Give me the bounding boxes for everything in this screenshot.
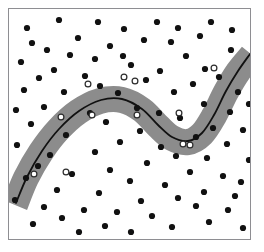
data-point <box>103 119 109 125</box>
data-point <box>187 169 193 175</box>
data-point <box>216 74 222 80</box>
data-point <box>134 105 140 111</box>
data-point <box>193 203 199 209</box>
data-point <box>173 153 179 159</box>
data-point <box>229 27 235 33</box>
data-point <box>137 128 143 134</box>
data-point <box>23 175 29 181</box>
data-point <box>143 77 149 83</box>
data-point <box>107 43 113 49</box>
data-point <box>41 104 47 110</box>
data-point <box>24 25 30 31</box>
data-point <box>67 52 73 58</box>
data-point <box>220 173 226 179</box>
data-point <box>224 141 230 147</box>
data-point <box>59 215 65 221</box>
support-vector-point <box>63 169 69 175</box>
data-point <box>81 207 87 213</box>
support-vector-point <box>180 141 186 147</box>
data-point <box>138 198 144 204</box>
support-vector-point <box>132 78 138 84</box>
support-vector-point <box>58 114 64 120</box>
data-point <box>96 190 102 196</box>
support-vector-point <box>121 74 127 80</box>
data-point <box>235 89 241 95</box>
support-vector-point <box>211 65 217 71</box>
data-point <box>193 134 199 140</box>
support-vector-point <box>89 112 95 118</box>
data-point <box>75 35 81 41</box>
data-point <box>204 155 210 161</box>
data-point <box>149 213 155 219</box>
data-point <box>28 121 34 127</box>
data-point <box>197 33 203 39</box>
data-point <box>240 225 246 231</box>
data-point <box>127 178 133 184</box>
data-point <box>120 53 126 59</box>
data-point <box>102 223 108 229</box>
data-point <box>128 229 134 235</box>
scatter-plot-canvas <box>0 0 264 252</box>
data-point <box>190 81 196 87</box>
data-point <box>92 149 98 155</box>
data-point <box>183 53 189 59</box>
data-point <box>208 19 214 25</box>
data-point <box>169 224 175 230</box>
data-point <box>13 107 19 113</box>
support-vector-point <box>176 110 182 116</box>
data-point <box>56 17 62 23</box>
data-point <box>171 89 177 95</box>
data-point <box>238 179 244 185</box>
data-point <box>225 207 231 213</box>
data-point <box>201 189 207 195</box>
support-vector-point <box>31 171 37 177</box>
data-point <box>158 144 164 150</box>
support-vector-point <box>85 81 91 87</box>
data-point <box>14 142 20 148</box>
data-point <box>117 139 123 145</box>
data-point <box>246 157 252 163</box>
data-point <box>63 132 69 138</box>
data-point <box>141 37 147 43</box>
data-point <box>29 40 35 46</box>
data-point <box>144 160 150 166</box>
data-point <box>47 152 53 158</box>
support-vector-point <box>134 112 140 118</box>
data-point <box>232 193 238 199</box>
data-point <box>128 62 134 68</box>
data-point <box>114 209 120 215</box>
data-point <box>54 187 60 193</box>
data-point <box>30 221 36 227</box>
data-point <box>168 39 174 45</box>
data-point <box>12 197 18 203</box>
data-point <box>156 110 162 116</box>
data-point <box>206 219 212 225</box>
data-point <box>44 47 50 53</box>
data-point <box>115 90 121 96</box>
data-point <box>246 101 252 107</box>
data-point <box>227 109 233 115</box>
data-point <box>95 19 101 25</box>
data-point <box>201 101 207 107</box>
data-point <box>76 229 82 235</box>
data-point <box>92 56 98 62</box>
data-point <box>240 127 246 133</box>
data-point <box>82 73 88 79</box>
data-point <box>202 66 208 72</box>
data-point <box>107 167 113 173</box>
data-point <box>51 67 57 73</box>
data-point <box>61 89 67 95</box>
data-point <box>157 68 163 74</box>
data-point <box>21 87 27 93</box>
data-point <box>121 26 127 32</box>
data-point <box>35 163 41 169</box>
data-point <box>41 204 47 210</box>
figure-root <box>0 0 264 252</box>
data-point <box>228 47 234 53</box>
data-point <box>97 83 103 89</box>
data-point <box>154 19 160 25</box>
data-point <box>69 171 75 177</box>
data-point <box>175 195 181 201</box>
data-point <box>162 182 168 188</box>
data-point <box>175 25 181 31</box>
